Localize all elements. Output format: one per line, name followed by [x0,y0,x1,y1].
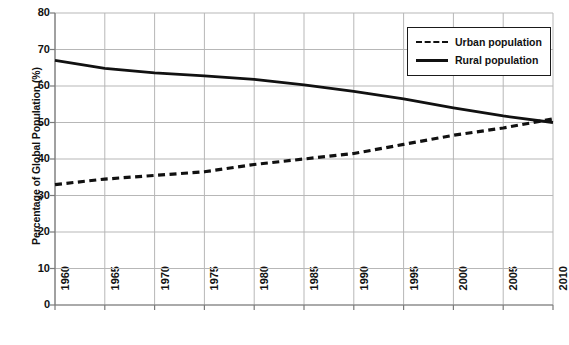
y-axis-ticks [50,13,55,305]
x-axis-ticks [55,305,553,310]
legend-item-urban: Urban population [416,33,542,51]
legend-swatch-dashed-icon [416,36,448,48]
legend-swatch-solid-icon [416,54,448,66]
chart-legend: Urban population Rural population [407,27,551,76]
legend-item-rural: Rural population [416,51,542,69]
legend-label-rural: Rural population [455,54,538,66]
legend-label-urban: Urban population [455,36,542,48]
